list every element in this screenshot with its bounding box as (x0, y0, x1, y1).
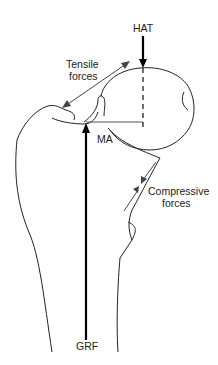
tensile-label-line1: Tensile (66, 58, 99, 70)
femur-outline (16, 96, 160, 352)
femur-diagram: HAT Tensile forces MA Compressive forces… (0, 0, 218, 365)
compressive-label-line1: Compressive (148, 185, 209, 197)
femoral-head (101, 68, 194, 150)
hat-label: HAT (133, 22, 153, 34)
tensile-label-line2: forces (69, 70, 98, 82)
grf-force-arrow (82, 123, 90, 340)
moment-arm-label: MA (97, 133, 113, 145)
hat-force-arrow (139, 36, 147, 68)
compressive-label-line2: forces (162, 197, 191, 209)
femur-illustration (0, 0, 218, 365)
grf-label: GRF (76, 340, 98, 352)
